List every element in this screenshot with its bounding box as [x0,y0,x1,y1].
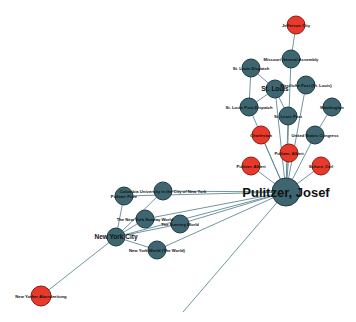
node-label-nyc: New York City [94,233,137,241]
node-label-stlouis_post_dispatch: St. Louis Post-Dispatch [226,105,273,110]
node-label-evening_world: The Evening World [161,222,199,227]
node-label-pulitzer: Pulitzer, Josef [242,185,330,200]
node-label-stlouis_dispatch: St. Louis Dispatch [233,66,270,71]
node-label-pulitzer_albert_top: Pulitzer, Albert [274,151,304,156]
network-graph: Pulitzer, JosefJefferson CityMissouri Ge… [0,0,356,322]
node-label-missouri: Missouri General Assembly [264,57,319,62]
node-label-schurz_carl: Schurz, Carl [309,164,333,169]
node-label-pulitzer_prize: Pulitzer Prize [111,194,138,199]
node-label-jefferson: Jefferson City [282,23,311,28]
edge-stlouis-pulitzer [275,89,286,192]
edge-pulitzer-offscreen [183,192,286,312]
node-label-ny_world: New York World (The World) [129,248,186,253]
node-label-pulitzer_albert: Pulitzer, Albert [236,164,266,169]
node-label-us_congress: United States Congress [291,133,339,138]
node-label-stlouis_post: St. Louis Post [274,114,303,119]
node-label-westliche_post: Westliche Post (St. Louis) [280,83,332,88]
node-label-ny_abendzeitung: New Yorker Abendzeitung [15,294,67,299]
edge-nyc-ny_abendzeitung [41,237,116,296]
node-label-charleston: Charleston [250,133,272,138]
node-label-washington: Washington [320,105,344,110]
